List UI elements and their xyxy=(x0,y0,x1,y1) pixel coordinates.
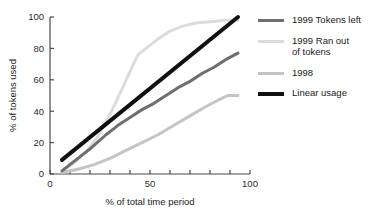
legend-swatch xyxy=(258,72,284,75)
x-tick-label: 50 xyxy=(145,178,156,189)
chart-screenshot: 020406080100050100% of total time period… xyxy=(0,0,384,219)
legend-swatch xyxy=(258,19,284,22)
x-axis-title: % of total time period xyxy=(105,196,194,207)
legend-label: 1999 Tokens left xyxy=(292,14,361,26)
legend-item: Linear usage xyxy=(258,87,384,99)
series-line xyxy=(62,53,238,171)
legend-label: Linear usage xyxy=(292,87,347,99)
plot-area: 020406080100050100% of total time period… xyxy=(0,0,262,219)
x-tick-label: 0 xyxy=(47,178,52,189)
y-tick-label: 80 xyxy=(33,43,44,54)
legend-label: 1998 xyxy=(292,67,313,79)
x-tick-label: 100 xyxy=(242,178,258,189)
y-tick-label: 20 xyxy=(33,137,44,148)
legend-item: 1999 Ran out of tokens xyxy=(258,35,384,58)
legend-swatch xyxy=(258,92,284,96)
y-tick-label: 40 xyxy=(33,106,44,117)
legend-swatch xyxy=(258,40,284,43)
y-axis-title: % of tokens used xyxy=(7,59,18,132)
legend-item: 1998 xyxy=(258,67,384,79)
legend-label: 1999 Ran out of tokens xyxy=(292,35,349,58)
y-tick-label: 60 xyxy=(33,74,44,85)
y-tick-label: 100 xyxy=(28,11,44,22)
legend-item: 1999 Tokens left xyxy=(258,14,384,26)
line-chart: 020406080100050100% of total time period… xyxy=(0,0,262,219)
chart-legend: 1999 Tokens left1999 Ran out of tokens19… xyxy=(258,14,384,108)
y-tick-label: 0 xyxy=(39,168,44,179)
